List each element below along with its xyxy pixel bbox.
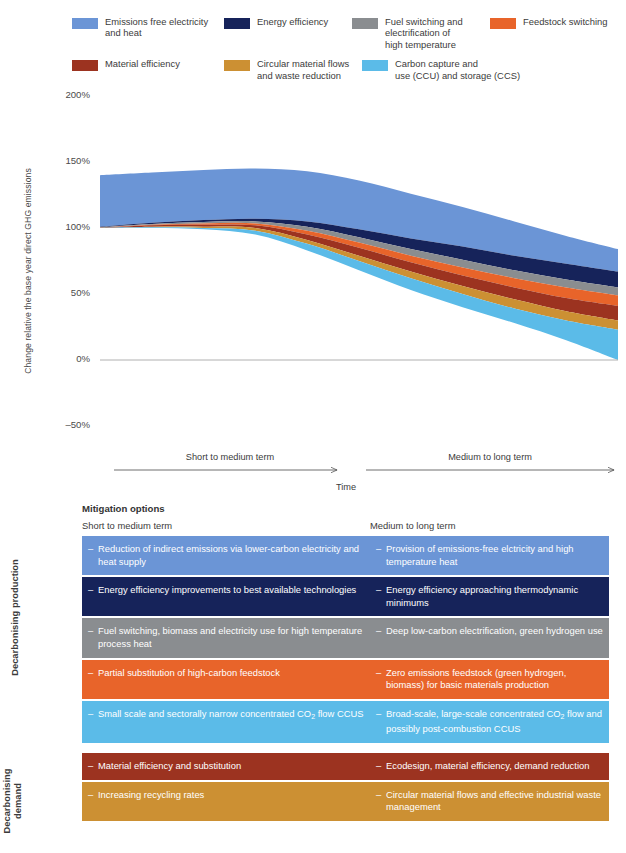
time-axis-arrows <box>0 440 626 502</box>
bullet-dash-icon: – <box>88 543 98 568</box>
color-swatch-icon <box>72 60 98 71</box>
bullet-dash-icon: – <box>88 708 98 736</box>
mitigation-cell-text: Energy efficiency approaching thermodyna… <box>386 584 603 609</box>
mitigation-cell-short-term: –Reduction of indirect emissions via low… <box>82 536 370 575</box>
bullet-dash-icon: – <box>376 584 386 609</box>
table-row: –Increasing recycling rates–Circular mat… <box>82 782 609 823</box>
legend-item-label: Fuel switching andelectrification ofhigh… <box>385 16 463 50</box>
mitigation-options-title: Mitigation options <box>82 503 165 514</box>
legend-item: Emissions free electricityand heat <box>72 16 224 39</box>
bullet-dash-icon: – <box>88 625 98 650</box>
color-swatch-icon <box>224 18 250 29</box>
table-row: –Reduction of indirect emissions via low… <box>82 536 609 577</box>
mitigation-cell-long-term: –Provision of emissions-free elctricity … <box>370 536 609 575</box>
bullet-dash-icon: – <box>376 667 386 692</box>
side-label-decarbonising-production: Decarbonising production <box>9 556 20 680</box>
color-swatch-icon <box>352 18 378 29</box>
mitigation-cell-text: Material efficiency and substitution <box>98 760 364 773</box>
mitigation-cell-long-term: –Circular material flows and effective i… <box>370 782 609 821</box>
bullet-dash-icon: – <box>376 760 386 773</box>
legend-item: Energy efficiency <box>224 16 352 29</box>
y-axis-tick-label: –50% <box>28 419 90 430</box>
mitigation-cell-text: Small scale and sectorally narrow concen… <box>98 708 364 736</box>
group-separator <box>82 745 609 753</box>
mitigation-cell-text: Increasing recycling rates <box>98 789 364 814</box>
mitigation-cell-short-term: –Small scale and sectorally narrow conce… <box>82 701 370 743</box>
mitigation-cell-text: Fuel switching, biomass and electricity … <box>98 625 364 650</box>
table-row: –Energy efficiency improvements to best … <box>82 577 609 618</box>
legend-item: Carbon capture anduse (CCU) and storage … <box>362 58 532 81</box>
mitigation-cell-long-term: –Zero emissions feedstock (green hydroge… <box>370 660 609 699</box>
y-axis-tick-label: 150% <box>28 155 90 166</box>
table-row: –Small scale and sectorally narrow conce… <box>82 701 609 745</box>
stacked-wedge-plot <box>100 96 618 426</box>
chart-legend: Emissions free electricityand heatEnergy… <box>72 16 626 81</box>
mitigation-cell-short-term: –Energy efficiency improvements to best … <box>82 577 370 616</box>
mitigation-cell-text: Energy efficiency improvements to best a… <box>98 584 364 609</box>
legend-item-label: Emissions free electricityand heat <box>105 16 208 39</box>
bullet-dash-icon: – <box>376 543 386 568</box>
mitigation-cell-short-term: –Increasing recycling rates <box>82 782 370 821</box>
legend-item: Feedstock switching <box>490 16 626 29</box>
column-header-long-term: Medium to long term <box>370 520 455 531</box>
mitigation-cell-text: Provision of emissions-free elctricity a… <box>386 543 603 568</box>
y-axis-ticks: 200%150%100%50%0%–50% <box>20 96 90 426</box>
legend-item: Fuel switching andelectrification ofhigh… <box>352 16 490 50</box>
mitigation-cell-text: Circular material flows and effective in… <box>386 789 603 814</box>
table-row: –Partial substitution of high-carbon fee… <box>82 660 609 701</box>
mitigation-cell-text: Deep low-carbon electrification, green h… <box>386 625 603 650</box>
table-row: –Fuel switching, biomass and electricity… <box>82 618 609 659</box>
time-axis-label: Time <box>316 482 376 492</box>
chart-area: Change relative the base year direct GHG… <box>0 96 626 426</box>
mitigation-cell-text: Reduction of indirect emissions via lowe… <box>98 543 364 568</box>
mitigation-cell-text: Ecodesign, material efficiency, demand r… <box>386 760 603 773</box>
color-swatch-icon <box>490 18 516 29</box>
mitigation-cell-short-term: –Partial substitution of high-carbon fee… <box>82 660 370 699</box>
mitigation-rows: –Reduction of indirect emissions via low… <box>82 536 609 823</box>
bullet-dash-icon: – <box>88 789 98 814</box>
legend-item-label: Energy efficiency <box>257 16 328 27</box>
legend-item-label: Feedstock switching <box>523 16 607 27</box>
mitigation-cell-long-term: –Deep low-carbon electrification, green … <box>370 618 609 657</box>
bullet-dash-icon: – <box>376 708 386 736</box>
bullet-dash-icon: – <box>376 789 386 814</box>
y-axis-tick-label: 200% <box>28 89 90 100</box>
y-axis-tick-label: 100% <box>28 221 90 232</box>
legend-item-label: Material efficiency <box>105 58 180 69</box>
mitigation-cell-short-term: –Material efficiency and substitution <box>82 753 370 780</box>
mitigation-cell-long-term: –Broad-scale, large-scale concentrated C… <box>370 701 609 743</box>
bullet-dash-icon: – <box>88 667 98 692</box>
y-axis-tick-label: 0% <box>28 353 90 364</box>
bullet-dash-icon: – <box>88 760 98 773</box>
bullet-dash-icon: – <box>88 584 98 609</box>
legend-item-label: Circular material flowsand waste reducti… <box>257 58 349 81</box>
column-header-short-term: Short to medium term <box>82 520 172 531</box>
mitigation-cell-text: Broad-scale, large-scale concentrated CO… <box>386 708 603 736</box>
wedge-svg <box>100 96 618 426</box>
mitigation-cell-text: Partial substitution of high-carbon feed… <box>98 667 364 692</box>
legend-row: Material efficiencyCircular material flo… <box>72 58 626 81</box>
mitigation-cell-long-term: –Ecodesign, material efficiency, demand … <box>370 753 609 780</box>
mitigation-cell-short-term: –Fuel switching, biomass and electricity… <box>82 618 370 657</box>
legend-item-label: Carbon capture anduse (CCU) and storage … <box>395 58 520 81</box>
medium-to-long-term-label: Medium to long term <box>410 452 570 462</box>
color-swatch-icon <box>224 60 250 71</box>
legend-item: Material efficiency <box>72 58 224 71</box>
short-to-medium-term-label: Short to medium term <box>150 452 310 462</box>
time-axis: Short to medium term Medium to long term… <box>0 440 626 502</box>
color-swatch-icon <box>362 60 388 71</box>
color-swatch-icon <box>72 18 98 29</box>
legend-row: Emissions free electricityand heatEnergy… <box>72 16 626 50</box>
y-axis-tick-label: 50% <box>28 287 90 298</box>
table-row: –Material efficiency and substitution–Ec… <box>82 753 609 782</box>
side-label-decarbonising-demand: Decarbonisingdemand <box>1 765 23 837</box>
legend-item: Circular material flowsand waste reducti… <box>224 58 362 81</box>
bullet-dash-icon: – <box>376 625 386 650</box>
mitigation-cell-text: Zero emissions feedstock (green hydrogen… <box>386 667 603 692</box>
mitigation-cell-long-term: –Energy efficiency approaching thermodyn… <box>370 577 609 616</box>
